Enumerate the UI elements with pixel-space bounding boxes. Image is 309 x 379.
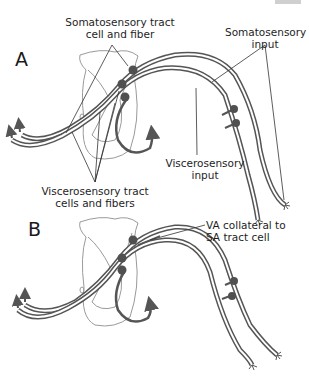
panel-label-b: B [28,218,41,240]
cell-body [129,66,138,75]
va-collateral-label: VA collateral to SA tract cell [206,219,286,243]
cell-body [118,80,127,89]
somatosensory-input-label: Somatosensory input [225,26,305,50]
viscerosensory-tract-label: Viscerosensory tract cells and fibers [40,185,150,209]
viscerosensory-input-label: Viscerosensory input [165,157,245,181]
panel-label-a: A [15,48,28,70]
somatosensory-tract-label: Somatosensory tract cell and fiber [65,16,175,40]
cell-body [121,93,130,102]
